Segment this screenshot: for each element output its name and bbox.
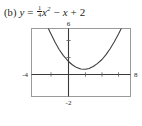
y-axis-bottom-label: -2	[66, 99, 72, 107]
graph-svg: 6 -2 -4 8	[0, 0, 142, 126]
x-axis-left-label: -4	[22, 71, 28, 79]
x-axis-right-label: 8	[134, 71, 138, 79]
graph-figure: 6 -2 -4 8	[0, 0, 142, 126]
y-axis-top-label: 6	[67, 20, 71, 28]
